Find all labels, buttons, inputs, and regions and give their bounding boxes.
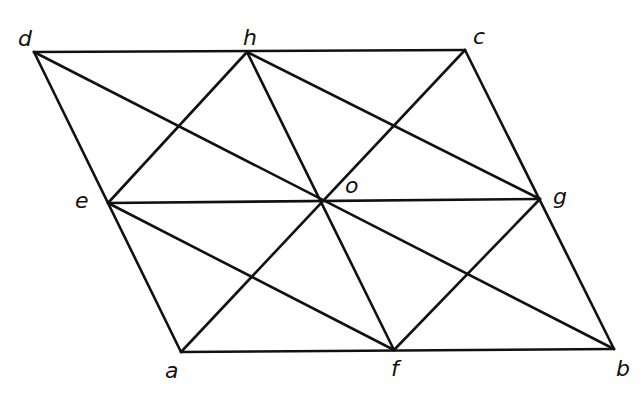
segment-ef bbox=[108, 203, 394, 350]
label-f: f bbox=[391, 356, 402, 381]
segment-gf bbox=[394, 199, 540, 350]
label-g: g bbox=[553, 184, 567, 209]
label-o: o bbox=[345, 173, 358, 198]
label-b: b bbox=[616, 356, 630, 381]
segments-group bbox=[34, 50, 614, 352]
label-e: e bbox=[75, 188, 89, 213]
segment-he bbox=[108, 52, 247, 203]
label-c: c bbox=[473, 24, 485, 49]
segment-ba bbox=[181, 349, 614, 352]
geometry-diagram: d h c e o g a f b bbox=[0, 0, 641, 394]
segment-dc bbox=[34, 50, 465, 52]
segment-hg bbox=[247, 52, 540, 199]
label-d: d bbox=[18, 26, 33, 51]
label-a: a bbox=[165, 358, 178, 383]
label-h: h bbox=[243, 25, 257, 50]
